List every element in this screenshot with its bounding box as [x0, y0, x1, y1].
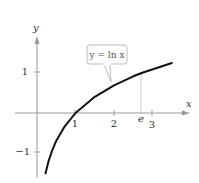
- x-tick-e: e: [138, 113, 144, 124]
- x-axis-arrow-icon: [182, 111, 190, 116]
- y-axis-arrow-icon: [35, 36, 40, 44]
- y-tick-1: 1: [22, 66, 28, 77]
- x-tick-1: 1: [72, 118, 78, 129]
- y-axis-label: y: [32, 22, 39, 33]
- ln-chart: y = ln x x y 1 2 3 e 1 −1: [0, 0, 199, 183]
- x-tick-3: 3: [149, 119, 155, 130]
- y-tick-neg1: −1: [15, 146, 30, 157]
- x-axis-label: x: [186, 98, 192, 109]
- callout-label: y = ln x: [89, 50, 125, 60]
- x-tick-2: 2: [111, 118, 117, 129]
- callout-pointer: [104, 64, 111, 82]
